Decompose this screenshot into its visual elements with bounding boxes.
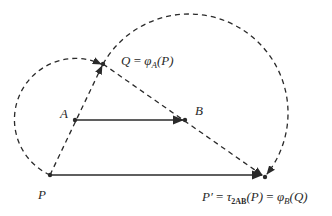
pp-tau-sub: 2AB <box>231 197 247 206</box>
pp-tau-arg: (P) <box>246 189 263 204</box>
point-Q <box>101 62 105 66</box>
point-B <box>183 118 187 122</box>
q-phi: φ <box>144 53 151 68</box>
pp-lhs: P′ <box>201 189 213 204</box>
q-eq: = <box>130 53 144 68</box>
pp-phi: φ <box>277 189 284 204</box>
label-Pprime-equation: P′ = τ2AB(P) = φB(Q) <box>201 189 308 206</box>
point-reflection-diagram: A B P Q = φA(P) P′ = τ2AB(P) = φB(Q) <box>0 0 332 216</box>
pp-phi-arg: (Q) <box>290 189 308 204</box>
pp-eq1: = <box>213 189 227 204</box>
label-P: P <box>37 187 46 202</box>
q-arg: (P) <box>157 53 174 68</box>
pp-eq2: = <box>263 189 277 204</box>
arc-phi-B <box>103 14 288 174</box>
label-A: A <box>59 106 68 121</box>
label-B: B <box>195 103 203 118</box>
point-P <box>48 173 52 177</box>
point-A <box>73 118 77 122</box>
point-Pprime <box>263 175 267 179</box>
label-Q-equation: Q = φA(P) <box>121 53 174 70</box>
